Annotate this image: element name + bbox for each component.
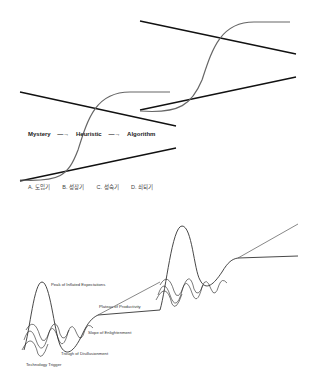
scribble-2 (156, 279, 227, 307)
lifecycle-stages: A. 도입기 B. 성장기 C. 성숙기 D. 쇠퇴기 (28, 183, 164, 191)
lower-line-2 (140, 77, 296, 110)
upper-line-1 (20, 92, 176, 126)
lower-line-1 (20, 148, 176, 181)
label-plateau: Plateau of Productivity (99, 304, 141, 309)
stage-c: C. 성숙기 (97, 183, 119, 191)
hype-curve-1 (24, 282, 160, 352)
stage-b: B. 성장기 (62, 183, 84, 191)
stage-d: D. 쇠퇴기 (131, 183, 153, 191)
arrow-right-icon: —→ (57, 131, 69, 137)
hype-curve-2 (160, 226, 298, 310)
hype-rising-line-2 (238, 224, 298, 258)
flow-step-algorithm: Algorithm (127, 131, 155, 137)
flow-sequence: Mystery —→ Heuristic —→ Algorithm (28, 131, 155, 137)
stage-a: A. 도입기 (28, 183, 50, 191)
flow-step-mystery: Mystery (28, 131, 51, 137)
upper-line-2 (140, 21, 296, 54)
flow-step-heuristic: Heuristic (76, 131, 102, 137)
s-curve-2 (140, 22, 290, 112)
label-slope: Slope of Enlightenment (88, 330, 131, 335)
arrow-right-icon: —→ (108, 131, 120, 137)
s-curve-diagram (0, 0, 314, 200)
label-trough: Trough of Disillusionment (61, 351, 108, 356)
hype-rising-line-1 (98, 282, 160, 315)
label-peak: Peak of Inflated Expectations (51, 282, 105, 287)
label-trigger: Technology Trigger (26, 362, 61, 367)
